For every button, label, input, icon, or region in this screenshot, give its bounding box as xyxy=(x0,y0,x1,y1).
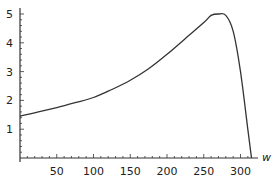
y-tick-label: 1 xyxy=(6,123,13,136)
y-tick-label: 3 xyxy=(6,66,13,79)
x-tick-label: 150 xyxy=(120,165,141,178)
y-tick-label: 2 xyxy=(6,94,13,107)
y-tick-label: 4 xyxy=(6,37,13,50)
x-tick-label: 300 xyxy=(230,165,251,178)
data-curve xyxy=(20,14,252,158)
tick-marks xyxy=(20,14,248,158)
x-axis-label: w xyxy=(262,151,271,164)
x-tick-label: 200 xyxy=(157,165,178,178)
tick-labels: 5010015020025030012345 xyxy=(6,8,251,178)
x-tick-label: 100 xyxy=(83,165,104,178)
x-tick-label: 250 xyxy=(193,165,214,178)
axes xyxy=(20,8,258,162)
x-tick-label: 50 xyxy=(50,165,64,178)
y-tick-label: 5 xyxy=(6,8,13,21)
line-chart: 5010015020025030012345 w xyxy=(0,0,277,186)
